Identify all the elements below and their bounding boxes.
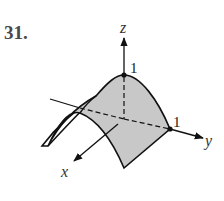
figure: 31. z 1 1 y x xyxy=(0,0,224,201)
x-axis-label: x xyxy=(60,163,68,180)
z-axis-label: z xyxy=(119,19,127,36)
y-axis-label: y xyxy=(203,132,213,150)
z-tick-label: 1 xyxy=(130,60,138,76)
z-intercept-point xyxy=(121,72,126,77)
y-tick-label: 1 xyxy=(173,114,181,130)
y-intercept-point xyxy=(167,126,172,131)
problem-number: 31. xyxy=(4,22,28,44)
y-axis xyxy=(170,129,203,138)
surface-diagram: z 1 1 y x xyxy=(0,0,224,201)
back-axis-line xyxy=(50,99,80,108)
